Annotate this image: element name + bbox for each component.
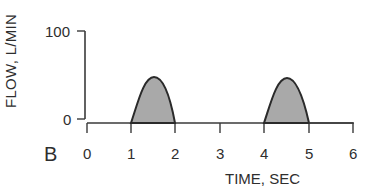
y-tick-label-100: 100 — [45, 24, 70, 39]
x-tick-label-5: 5 — [305, 146, 313, 161]
flow-pulse-2 — [264, 78, 309, 123]
x-tick-label-4: 4 — [260, 146, 268, 161]
x-tick-label-3: 3 — [216, 146, 224, 161]
flow-pulse-1 — [131, 77, 175, 123]
x-tick-label-2: 2 — [171, 146, 179, 161]
x-tick-label-0: 0 — [83, 146, 91, 161]
panel-label: B — [44, 143, 57, 166]
y-axis-title: FLOW, L/MIN — [2, 14, 19, 108]
x-ticks — [87, 123, 353, 133]
x-axis-title: TIME, SEC — [225, 170, 300, 187]
y-tick-label-0: 0 — [63, 112, 71, 127]
x-tick-label-1: 1 — [127, 146, 135, 161]
x-tick-label-6: 6 — [349, 146, 357, 161]
